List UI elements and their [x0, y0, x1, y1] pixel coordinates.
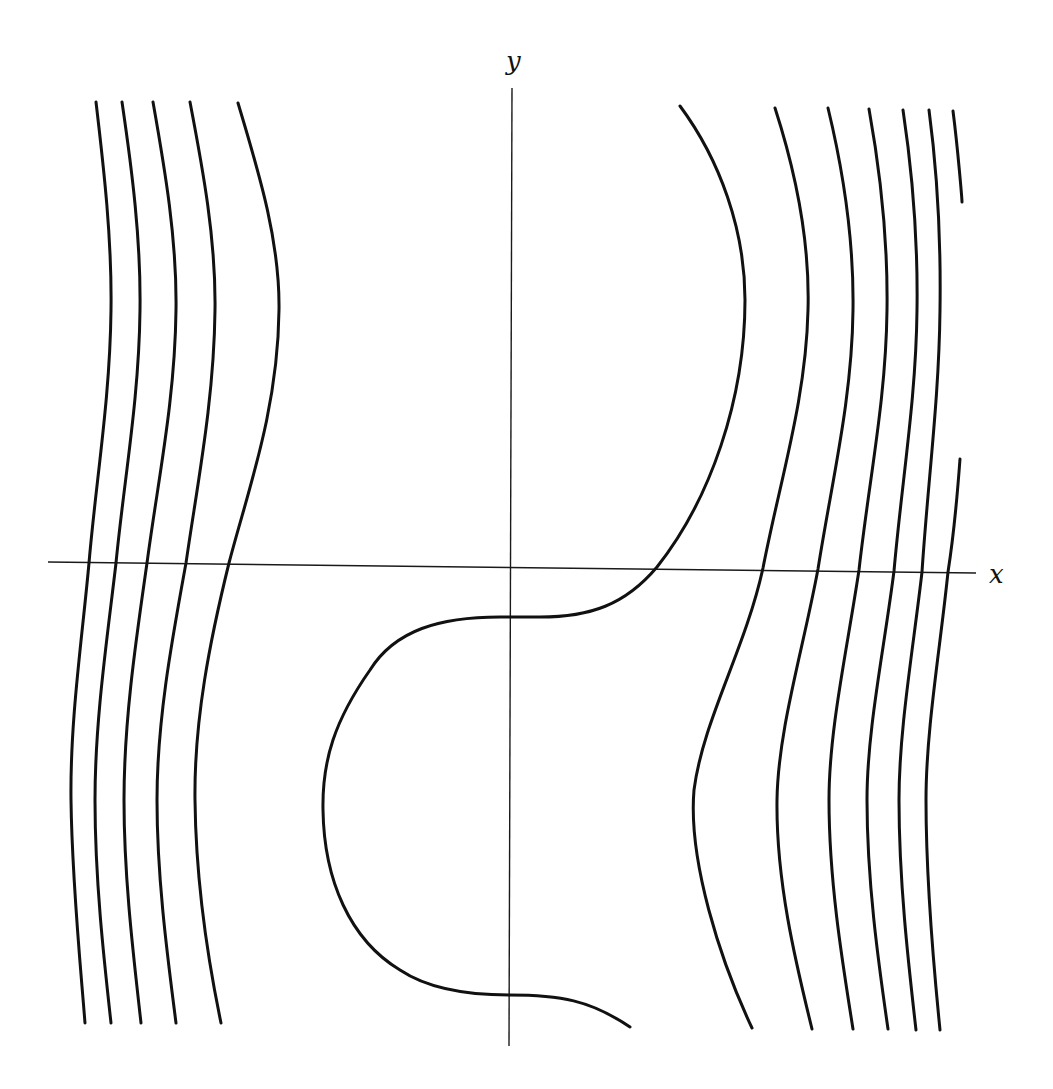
right-curve-1: [693, 108, 808, 1028]
left-curve-5: [195, 103, 279, 1023]
left-curve-4: [157, 102, 215, 1023]
right-curve-7: [926, 459, 960, 1030]
y-axis-label: y: [505, 46, 521, 76]
right-curve-5: [899, 110, 940, 1030]
right-curve-6: [953, 111, 962, 202]
right-curve-4: [867, 110, 917, 1029]
right-curve-3: [829, 109, 887, 1029]
diagram-canvas: x y: [0, 0, 1053, 1089]
right-curve-2: [777, 108, 853, 1029]
right-curve-family: [693, 108, 962, 1030]
x-axis-label: x: [989, 559, 1004, 589]
